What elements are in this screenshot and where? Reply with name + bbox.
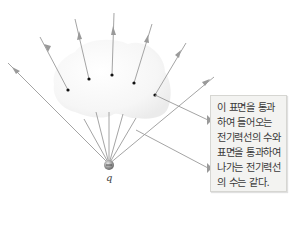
arrowhead-icon: [44, 44, 51, 52]
callout-text-line: 나가는 전기력선: [217, 160, 286, 175]
surface-point: [132, 81, 135, 84]
surface-point: [110, 73, 113, 76]
field-line: [96, 112, 109, 164]
field-line: [109, 118, 136, 164]
callout-text-line: 표면을 통과하여: [217, 145, 286, 160]
arrowhead-icon: [202, 79, 210, 86]
callout-text-line: 전기력선의 수와: [217, 130, 286, 145]
field-line: [84, 119, 109, 164]
callout-box: 이 표면을 통과 하여 들어오는 전기력선의 수와 표면을 통과하여 나가는 전…: [210, 95, 287, 192]
leader-line-out: [136, 130, 208, 168]
arrowhead-icon: [175, 50, 181, 58]
callout-text-line: 하여 들어오는: [217, 115, 286, 130]
field-line: [109, 114, 123, 164]
charge-label: q: [106, 172, 112, 183]
surface-point: [87, 77, 90, 80]
closed-surface: [54, 40, 171, 119]
arrowhead-icon: [12, 67, 20, 74]
callout-text-line: 의 수는 같다.: [217, 175, 286, 190]
callout-text-line: 이 표면을 통과: [217, 100, 286, 115]
surface-point: [66, 88, 69, 91]
